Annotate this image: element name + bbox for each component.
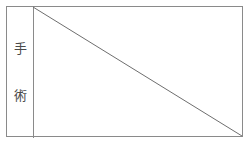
diagonal-line-layer — [0, 0, 251, 145]
diagonal-line — [33, 7, 242, 136]
diagram-root: 手 術 — [0, 0, 251, 145]
